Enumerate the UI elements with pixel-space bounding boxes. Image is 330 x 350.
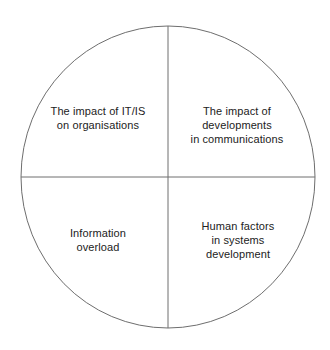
quadrant-label-bottom-right: Human factors in systems development (172, 219, 304, 261)
diagram-canvas (0, 0, 330, 350)
quadrant-circle-diagram: The impact of IT/IS on organisations The… (0, 0, 330, 350)
quadrant-label-top-right: The impact of developments in communicat… (172, 104, 302, 146)
quadrant-label-bottom-left: Information overload (32, 226, 164, 254)
quadrant-label-top-left: The impact of IT/IS on organisations (30, 104, 166, 132)
